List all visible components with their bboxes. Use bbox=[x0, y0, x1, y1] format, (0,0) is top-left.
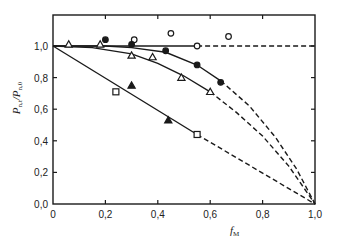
fit-line-solid bbox=[53, 46, 197, 135]
open-triangle-marker bbox=[178, 74, 185, 80]
x-tick-label: 0,6 bbox=[203, 209, 217, 220]
x-tick-label: 0,4 bbox=[151, 209, 165, 220]
filled-circle-marker bbox=[194, 62, 200, 68]
y-tick-label: 0,0 bbox=[34, 199, 48, 210]
y-tick-label: 0,2 bbox=[34, 167, 48, 178]
x-tick-label: 0,8 bbox=[256, 209, 270, 220]
open-circle-marker bbox=[226, 34, 232, 40]
open-triangle-marker bbox=[65, 41, 72, 47]
open-square-marker bbox=[113, 89, 119, 95]
plot-border bbox=[53, 15, 315, 204]
x-tick-label: 0 bbox=[50, 209, 56, 220]
y-tick-label: 0,8 bbox=[34, 73, 48, 84]
filled-circle-marker bbox=[103, 37, 109, 43]
filled-circle-marker bbox=[218, 80, 224, 86]
open-triangle-marker bbox=[149, 53, 156, 59]
filled-circle-marker bbox=[129, 42, 135, 48]
chart: 00,20,40,60,81,00,00,20,40,60,81,0 fМ Pn… bbox=[0, 0, 337, 242]
open-circle-marker bbox=[194, 43, 200, 49]
open-square-marker bbox=[194, 131, 200, 137]
x-axis-title: fМ bbox=[230, 224, 240, 238]
filled-circle-marker bbox=[163, 48, 169, 54]
x-tick-label: 1,0 bbox=[308, 209, 322, 220]
y-tick-label: 0,4 bbox=[34, 136, 48, 147]
y-tick-label: 0,6 bbox=[34, 104, 48, 115]
filled-triangle-marker bbox=[128, 82, 135, 88]
fit-lines bbox=[53, 46, 315, 204]
open-triangle-marker bbox=[97, 41, 104, 47]
plot-frame bbox=[53, 15, 315, 204]
y-axis-title: Pn,t/Pn,0 bbox=[10, 81, 24, 115]
y-tick-label: 1,0 bbox=[34, 41, 48, 52]
x-tick-label: 0,2 bbox=[98, 209, 112, 220]
fit-line-dashed bbox=[210, 92, 315, 204]
open-circle-marker bbox=[168, 31, 174, 37]
open-triangle-marker bbox=[207, 88, 214, 94]
fit-line-dashed bbox=[197, 135, 315, 205]
